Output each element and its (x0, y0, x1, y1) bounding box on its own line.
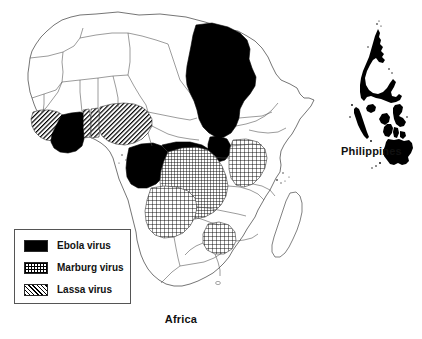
legend-label-lassa: Lassa virus (57, 284, 112, 296)
legend-label-marburg: Marburg virus (57, 262, 124, 274)
virus-legend: Ebola virus Marburg virus Lassa virus (14, 229, 131, 304)
region-lassa-benin (91, 108, 100, 138)
legend-item-list: Ebola virus Marburg virus Lassa virus (15, 230, 130, 303)
legend-item-ebola: Ebola virus (24, 239, 111, 253)
madagascar-outline (272, 192, 302, 257)
region-lassa-togo (83, 109, 91, 138)
grid-swatch-icon (24, 262, 48, 274)
solid-swatch-icon (24, 240, 48, 252)
legend-item-lassa: Lassa virus (24, 283, 112, 297)
diagonal-swatch-icon (24, 284, 48, 296)
legend-label-ebola: Ebola virus (57, 240, 111, 252)
legend-item-marburg: Marburg virus (24, 261, 124, 275)
southern-africa-marks (216, 281, 221, 284)
africa-caption: Africa (0, 313, 422, 325)
virus-distribution-figure: Ebola virus Marburg virus Lassa virus Af… (0, 0, 422, 339)
philippines-caption: Philippines (341, 145, 402, 157)
